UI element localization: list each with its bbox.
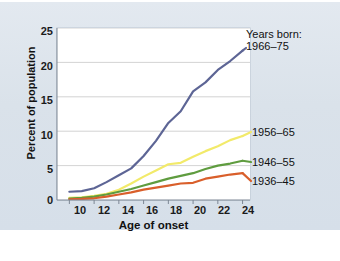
- series-leader-1936-45: [243, 173, 251, 181]
- series-label-1936-45: 1936–45: [252, 175, 295, 187]
- series-leader-1956-65: [243, 132, 251, 136]
- series-leader-1946-55: [243, 161, 251, 162]
- legend-title: Years born:: [246, 28, 302, 40]
- series-label-1966-75: 1966–75: [246, 40, 289, 52]
- x-tick-marks: [69, 200, 242, 204]
- series-label-1956-65: 1956–65: [252, 126, 295, 138]
- chart-figure: Percent of population 25 20 15 10 5 0 10…: [0, 0, 340, 261]
- series-label-1946-55: 1946–55: [252, 156, 295, 168]
